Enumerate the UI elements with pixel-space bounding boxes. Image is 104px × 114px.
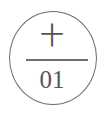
badge-top-character: 十	[0, 22, 104, 50]
badge-number: 01	[0, 66, 104, 94]
badge-divider-line	[26, 59, 88, 61]
